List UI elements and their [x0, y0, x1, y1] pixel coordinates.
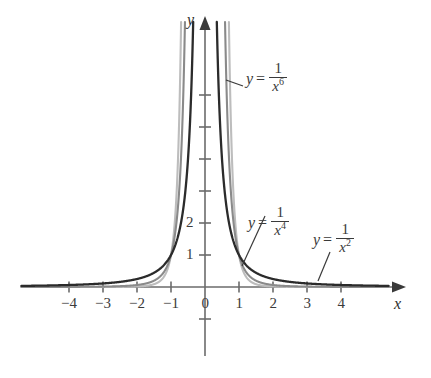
curve-label-x6-lhs: y: [246, 71, 253, 87]
curve-label-x6-numerator: 1: [271, 61, 285, 77]
curve-label-x4-den-exp: 4: [281, 220, 286, 231]
curve-label-x6-equals: =: [256, 71, 265, 87]
curve-label-x4-equals: =: [258, 215, 267, 231]
y-axis-label: y: [187, 12, 194, 28]
curve-label-x6-fraction: 1 x6: [269, 61, 287, 95]
curve-label-x2-denominator: x2: [337, 239, 353, 256]
curve-label-x4-fraction: 1 x4: [271, 205, 289, 239]
curve-label-x4: y = 1 x4: [248, 206, 289, 240]
curve-y-1-x-4: [21, 22, 185, 287]
curve-label-x4-lhs: y: [248, 215, 255, 231]
curve-y-1-x-6: [21, 22, 181, 287]
curve-label-x4-numerator: 1: [273, 205, 287, 221]
curve-label-x4-den-base: x: [274, 222, 281, 238]
y-tick-label: 1: [186, 247, 194, 262]
curve-label-x2-lhs: y: [313, 232, 320, 248]
curve-label-x6-den-base: x: [272, 78, 279, 94]
curve-label-x2-equals: =: [323, 232, 332, 248]
curve-label-x4-denominator: x4: [272, 222, 288, 239]
graph-canvas: [0, 0, 431, 378]
curve-label-x2-numerator: 1: [338, 222, 352, 238]
x-axis-arrowhead: [392, 282, 406, 293]
curve-label-x2: y = 1 x2: [313, 223, 354, 257]
curve-label-x2-den-base: x: [339, 239, 346, 255]
x-tick-label: 1: [236, 296, 244, 311]
curve-label-x6: y = 1 x6: [246, 62, 287, 96]
curve-y-1-x-2: [21, 22, 193, 286]
y-tick-label: 2: [186, 215, 194, 230]
x-tick-label: −2: [129, 296, 145, 311]
x-tick-label: 3: [304, 296, 312, 311]
x-axis-label: x: [394, 296, 401, 312]
x-tick-label: 2: [270, 296, 278, 311]
curve-label-x2-den-exp: 2: [346, 237, 351, 248]
curve-label-x6-den-exp: 6: [279, 76, 284, 87]
x-tick-label: 0: [202, 296, 210, 311]
x-tick-label: −4: [61, 296, 77, 311]
x-tick-label: −1: [163, 296, 179, 311]
y-axis-arrowhead: [200, 16, 211, 30]
leader-line-x6: [226, 80, 243, 86]
function-graph-figure: −4−3−2−101234 12 x y y = 1 x6 y = 1 x4 y…: [0, 0, 431, 378]
x-tick-label: −3: [95, 296, 111, 311]
curve-label-x2-fraction: 1 x2: [336, 222, 354, 256]
curve-y-1-x-2: [217, 22, 389, 286]
x-tick-label: 4: [338, 296, 346, 311]
curve-label-x6-denominator: x6: [270, 78, 286, 95]
